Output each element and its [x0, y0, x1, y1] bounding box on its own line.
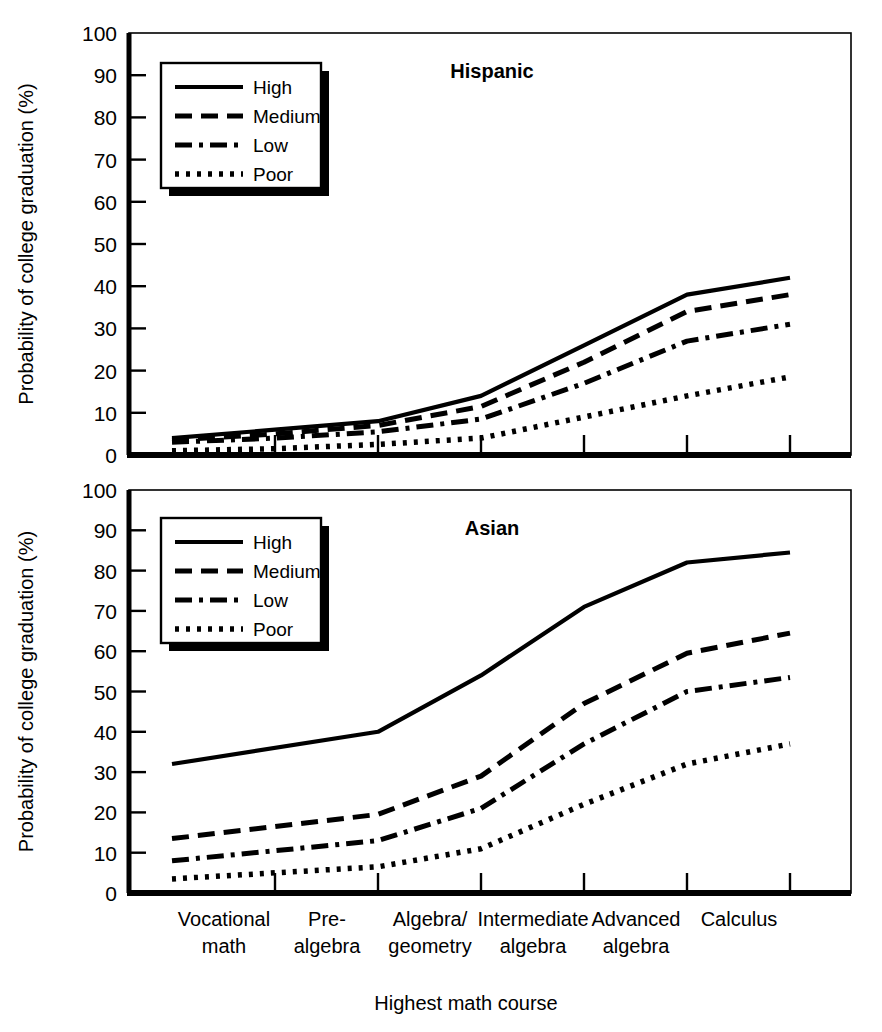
y-axis-title: Probability of college graduation (%) [15, 83, 37, 404]
y-tick-label: 30 [94, 317, 117, 340]
x-category-label-line2: algebra [603, 935, 671, 957]
y-tick-label: 90 [94, 519, 117, 542]
y-tick-label: 90 [94, 64, 117, 87]
panel-hispanic: 0102030405060708090100HispanicHighMedium… [82, 22, 851, 467]
y-tick-label: 60 [94, 640, 117, 663]
legend-label-medium: Medium [253, 106, 321, 127]
legend-label-medium: Medium [253, 561, 321, 582]
x-category-label: Intermediate [477, 908, 588, 930]
y-tick-label: 50 [94, 681, 117, 704]
panel-title: Asian [465, 517, 519, 539]
x-category-label: Advanced [592, 908, 681, 930]
panel-title: Hispanic [450, 60, 533, 82]
chart-canvas: Probability of college graduation (%)Pro… [0, 0, 882, 1032]
y-tick-label: 50 [94, 233, 117, 256]
x-category-label-line2: algebra [500, 935, 568, 957]
y-tick-label: 0 [105, 882, 117, 905]
x-category-label: Pre- [308, 908, 346, 930]
x-axis-title: Highest math course [374, 992, 557, 1014]
x-category-label-line2: geometry [388, 935, 471, 957]
y-tick-label: 0 [105, 444, 117, 467]
x-category-label: Vocational [178, 908, 270, 930]
y-tick-label: 10 [94, 842, 117, 865]
x-category-label-line2: algebra [294, 935, 362, 957]
y-tick-label: 100 [82, 22, 117, 45]
y-tick-label: 70 [94, 149, 117, 172]
legend-label-poor: Poor [253, 619, 294, 640]
y-tick-label: 30 [94, 761, 117, 784]
y-tick-label: 80 [94, 106, 117, 129]
y-tick-label: 40 [94, 721, 117, 744]
legend-label-low: Low [253, 135, 288, 156]
y-tick-label: 10 [94, 402, 117, 425]
x-category-label: Calculus [701, 908, 778, 930]
y-axis-title: Probability of college graduation (%) [15, 531, 37, 852]
legend-label-high: High [253, 77, 292, 98]
y-tick-label: 60 [94, 191, 117, 214]
y-tick-label: 70 [94, 600, 117, 623]
x-category-label: Algebra/ [393, 908, 468, 930]
y-tick-label: 100 [82, 479, 117, 502]
y-tick-label: 20 [94, 360, 117, 383]
y-tick-label: 20 [94, 801, 117, 824]
panel-asian: 0102030405060708090100AsianHighMediumLow… [82, 479, 851, 905]
legend-label-poor: Poor [253, 164, 294, 185]
y-tick-label: 80 [94, 560, 117, 583]
y-tick-label: 40 [94, 275, 117, 298]
legend-label-high: High [253, 532, 292, 553]
legend-label-low: Low [253, 590, 288, 611]
figure-root: Probability of college graduation (%)Pro… [0, 0, 882, 1032]
x-category-label-line2: math [202, 935, 246, 957]
